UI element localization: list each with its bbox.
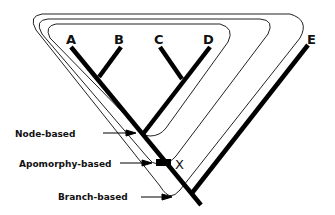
branch-c bbox=[160, 47, 182, 79]
taxon-label-d: D bbox=[203, 32, 214, 47]
apomorphy-marker bbox=[156, 159, 171, 166]
branch-arrow-head bbox=[162, 194, 172, 200]
tree-branches bbox=[71, 45, 308, 205]
branch-d bbox=[143, 47, 210, 134]
taxon-label-e: E bbox=[307, 32, 316, 47]
taxon-label-c: C bbox=[154, 32, 164, 47]
node-based-label: Node-based bbox=[15, 129, 75, 139]
apomorphy-label: X bbox=[175, 157, 184, 172]
apomorphy-based-label: Apomorphy-based bbox=[19, 159, 111, 169]
branch-b bbox=[99, 47, 121, 77]
taxon-label-a: A bbox=[66, 32, 76, 47]
node-arrow-head bbox=[126, 130, 136, 136]
branch-a bbox=[71, 47, 201, 205]
cladogram-diagram: A B C D E X Node-based Apomorphy-based B… bbox=[0, 0, 335, 215]
branch-based-label: Branch-based bbox=[58, 192, 128, 202]
taxon-label-b: B bbox=[114, 32, 124, 47]
